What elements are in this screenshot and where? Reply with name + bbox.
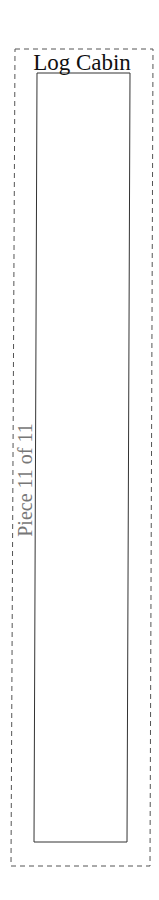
piece-label: Piece 11 of 11 — [14, 423, 36, 537]
sewing-outline — [34, 73, 130, 842]
pattern-title: Log Cabin — [33, 50, 131, 75]
pattern-piece-canvas: Log Cabin Piece 11 of 11 — [0, 0, 159, 900]
